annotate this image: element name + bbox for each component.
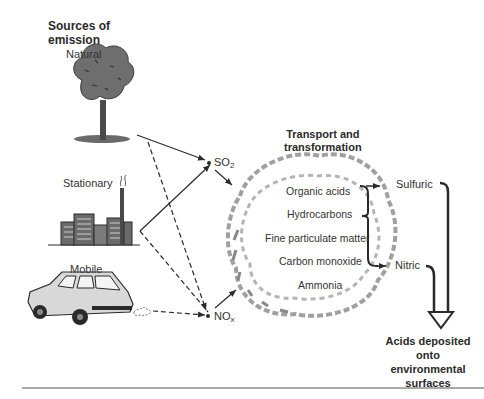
so2-base: SO xyxy=(214,156,230,168)
nitric-label: Nitric xyxy=(395,259,420,272)
stationary-label: Stationary xyxy=(63,177,113,190)
transport-heading-line2: transformation xyxy=(284,141,362,154)
cloud-item-ammonia: Ammonia xyxy=(298,279,342,291)
nox-sub: x xyxy=(231,315,235,324)
deposition-line3: environmental xyxy=(372,362,484,376)
so2-label: SO2 xyxy=(214,156,234,172)
deposition-line4: surfaces xyxy=(372,376,484,390)
sulfuric-label: Sulfuric xyxy=(396,178,433,191)
cloud-item-carbon-monoxide: Carbon monoxide xyxy=(279,255,362,267)
so2-sub: 2 xyxy=(230,161,234,170)
nox-label: NOx xyxy=(214,310,235,326)
sources-heading-line2: emission xyxy=(48,33,110,47)
sources-heading: Sources of emission xyxy=(48,19,110,47)
deposition-label: Acids deposited onto environmental surfa… xyxy=(372,334,484,390)
deposition-line2: onto xyxy=(372,348,484,362)
transport-heading-line1: Transport and xyxy=(284,128,362,141)
cloud-item-organic-acids: Organic acids xyxy=(286,185,350,197)
sources-heading-line1: Sources of xyxy=(48,19,110,33)
deposition-arrow xyxy=(426,183,453,328)
nox-base: NO xyxy=(214,310,231,322)
cloud-item-fine-particulate-matter: Fine particulate matter xyxy=(265,232,369,244)
mobile-label: Mobile xyxy=(70,263,102,276)
deposition-line1: Acids deposited xyxy=(372,334,484,348)
natural-label: Natural xyxy=(66,48,101,61)
cloud-item-hydrocarbons: Hydrocarbons xyxy=(287,208,352,220)
car-icon xyxy=(28,272,151,325)
transport-heading: Transport and transformation xyxy=(284,128,362,154)
